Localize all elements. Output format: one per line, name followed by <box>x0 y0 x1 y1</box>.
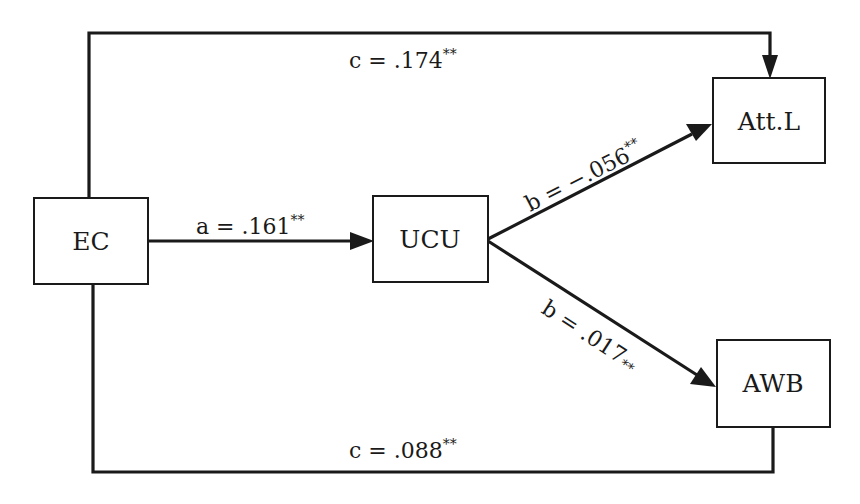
node-label-awb: AWB <box>741 369 803 398</box>
node-label-att-l: Att.L <box>737 107 800 136</box>
node-label-ec: EC <box>72 227 109 256</box>
edge-b-ucu-to-awb <box>488 241 716 387</box>
edge-label-b-att-l: b = −.056** <box>520 134 646 216</box>
node-ec: EC <box>34 198 148 284</box>
node-ucu: UCU <box>373 196 488 282</box>
node-awb: AWB <box>717 340 830 427</box>
mediation-diagram: EC UCU Att.L AWB c = .174** a = .161** c… <box>0 0 860 504</box>
arrowhead-icon <box>686 124 712 141</box>
arrowhead-icon <box>690 367 716 387</box>
node-att-l: Att.L <box>713 78 825 163</box>
edge-label-c-att-l: c = .174** <box>349 46 457 73</box>
node-label-ucu: UCU <box>399 225 460 254</box>
arrowhead-icon <box>350 232 374 250</box>
arrowhead-icon <box>762 55 778 79</box>
edge-label-c-awb: c = .088** <box>349 436 457 463</box>
edge-label-a: a = .161** <box>196 212 305 239</box>
